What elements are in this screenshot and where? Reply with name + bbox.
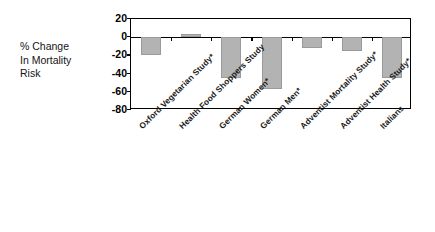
y-axis-tick-label: -60 — [101, 86, 127, 96]
y-axis-tick-label: 20 — [101, 13, 127, 23]
x-axis-tick-mark — [372, 37, 373, 41]
x-axis-tick-mark — [171, 37, 172, 41]
y-axis-tick-label: -80 — [101, 104, 127, 114]
bar — [141, 37, 161, 55]
y-axis-tick-mark — [127, 109, 131, 110]
bar — [181, 34, 201, 37]
bar — [302, 37, 322, 48]
y-axis-tick-mark — [127, 91, 131, 92]
y-axis-tick-label: -40 — [101, 68, 127, 78]
y-axis-tick-label: 0 — [101, 31, 127, 41]
x-axis-tick-mark — [211, 37, 212, 41]
y-axis-tick-label: -20 — [101, 49, 127, 59]
x-axis-tick-mark — [251, 37, 252, 41]
y-axis-tick-mark — [127, 54, 131, 55]
y-axis-tick-mark — [127, 73, 131, 74]
mortality-risk-bar-chart: % Change In Mortality Risk 200-20-40-60-… — [0, 0, 435, 232]
y-axis-tick-labels: 200-20-40-60-80 — [99, 18, 127, 109]
y-axis-tick-mark — [127, 18, 131, 19]
bar — [342, 37, 362, 51]
x-axis-tick-mark — [332, 37, 333, 41]
y-axis-tick-mark — [127, 36, 131, 37]
x-axis-tick-mark — [292, 37, 293, 41]
